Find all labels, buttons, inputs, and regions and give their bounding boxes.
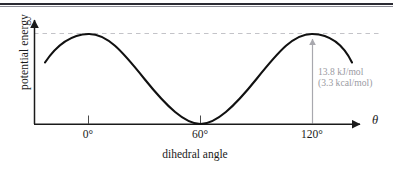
x-tick-label-60: 60°	[177, 128, 223, 140]
x-tick-label-120: 120°	[289, 128, 335, 140]
plot-canvas	[0, 0, 393, 189]
potential-energy-curve	[45, 34, 352, 124]
y-axis-title: potential energy	[18, 10, 30, 94]
figure-root: potential energy 0° 60° 120° dihedral an…	[0, 0, 393, 189]
x-axis-title: dihedral angle	[135, 148, 255, 160]
barrier-label-kj: 13.8 kJ/mol	[318, 66, 363, 77]
barrier-label-kcal: (3.3 kcal/mol)	[318, 77, 372, 88]
theta-axis-symbol: θ	[372, 113, 378, 128]
x-tick-label-0: 0°	[65, 128, 111, 140]
